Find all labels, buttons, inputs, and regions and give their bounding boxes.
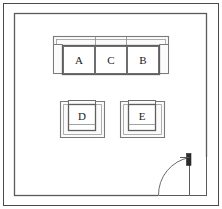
outer-border (4, 4, 219, 206)
armchair-d[interactable]: D (61, 101, 105, 138)
sofa-seat-b[interactable]: B (128, 47, 159, 74)
armchair-e-label: E (139, 110, 146, 122)
sofa-armrest-right (160, 45, 169, 74)
sofa-seat-c[interactable]: C (96, 47, 127, 74)
three-seat-sofa[interactable]: A C B (54, 37, 169, 75)
seat-a-label: A (75, 54, 83, 66)
sofa-seat-a[interactable]: A (64, 47, 95, 74)
sofa-armrest-left (54, 45, 63, 74)
armchair-e[interactable]: E (121, 101, 165, 138)
door-swing-arc (158, 158, 189, 196)
seat-c-label: C (107, 54, 114, 66)
floor-plan-canvas: A C B D (0, 0, 222, 209)
door-hinge-icon (187, 154, 192, 166)
seat-b-label: B (139, 54, 146, 66)
swing-door[interactable] (158, 154, 207, 197)
armchair-d-label: D (78, 110, 86, 122)
floor-plan-drawing: A C B D (0, 0, 222, 209)
